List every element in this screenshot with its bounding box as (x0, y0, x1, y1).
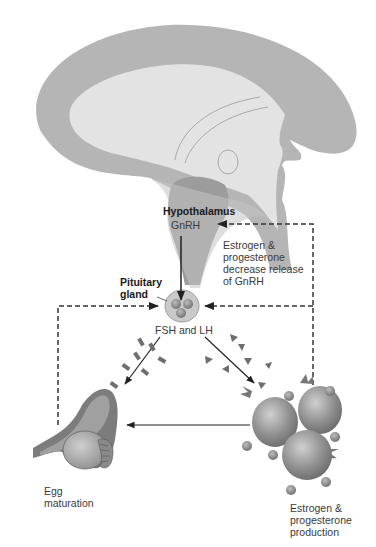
feedback-note-line: progesterone (223, 251, 304, 263)
diagram-canvas (0, 0, 376, 547)
feedback-note: Estrogen & progesterone decrease release… (223, 239, 304, 287)
fsh-particles (110, 338, 167, 389)
egg-maturation-line: maturation (44, 497, 94, 509)
brain-illustration (36, 25, 356, 288)
feedback-note-line: decrease release (223, 263, 304, 275)
hypothalamus-label: Hypothalamus (163, 205, 235, 217)
estrogen-production-label: Estrogen & progesterone production (290, 502, 352, 538)
follicle-cells-illustration (240, 374, 342, 495)
estrogen-production-line: Estrogen & (290, 502, 352, 514)
pituitary-label-line: Pituitary (120, 276, 162, 288)
egg-maturation-line: Egg (44, 485, 94, 497)
pituitary-gland-illustration (157, 290, 199, 322)
feedback-note-line: Estrogen & (223, 239, 304, 251)
ovary-illustration (33, 389, 118, 469)
gnrh-label: GnRH (171, 219, 200, 231)
pituitary-label: Pituitary gland (120, 276, 162, 300)
fsh-lh-label: FSH and LH (155, 324, 213, 336)
pituitary-label-line: gland (120, 288, 162, 300)
estrogen-production-line: progesterone (290, 514, 352, 526)
egg-maturation-label: Egg maturation (44, 485, 94, 509)
estrogen-production-line: production (290, 526, 352, 538)
feedback-note-line: of GnRH (223, 275, 304, 287)
lh-particles (205, 334, 272, 389)
